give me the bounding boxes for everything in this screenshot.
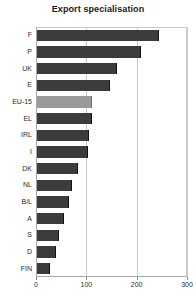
x-tick-label-200: 200: [131, 281, 143, 288]
chart-container: Export specialisation FPUKEEU-15ELIRLIDK…: [0, 0, 196, 303]
category-label-s: S: [0, 231, 32, 238]
category-label-irl: IRL: [0, 131, 32, 138]
category-label-dk: DK: [0, 165, 32, 172]
category-label-uk: UK: [0, 65, 32, 72]
category-label-a: A: [0, 215, 32, 222]
category-label-fin: FIN: [0, 265, 32, 272]
category-label-eu-15: EU-15: [0, 98, 32, 105]
category-label-p: P: [0, 48, 32, 55]
category-axis-labels: FPUKEEU-15ELIRLIDKNLB/LASDFIN: [0, 27, 196, 277]
category-label-el: EL: [0, 115, 32, 122]
category-label-b-l: B/L: [0, 198, 32, 205]
category-label-nl: NL: [0, 181, 32, 188]
x-tick-label-100: 100: [80, 281, 92, 288]
chart-title: Export specialisation: [0, 4, 196, 14]
x-tick-label-300: 300: [181, 281, 193, 288]
x-tickmark-200: [137, 277, 138, 280]
category-label-d: D: [0, 248, 32, 255]
category-label-f: F: [0, 31, 32, 38]
category-label-e: E: [0, 81, 32, 88]
x-tickmark-300: [187, 277, 188, 280]
x-tickmark-100: [86, 277, 87, 280]
category-label-i: I: [0, 148, 32, 155]
x-tickmark-0: [36, 277, 37, 280]
x-tick-label-0: 0: [34, 281, 38, 288]
